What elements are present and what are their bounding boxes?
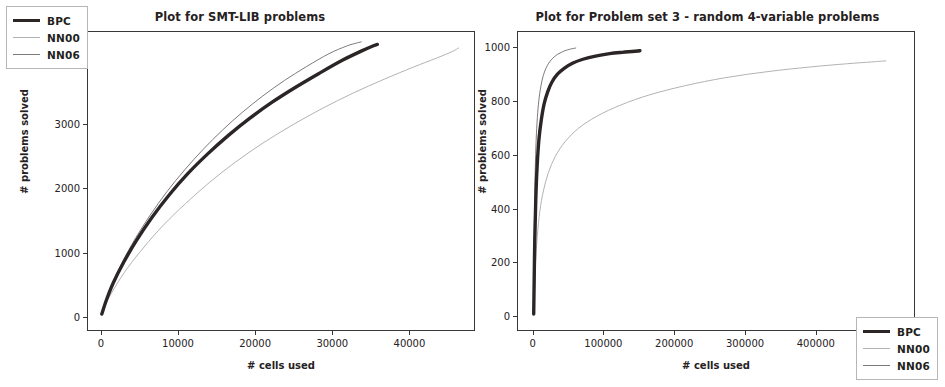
- legend-entry: NN06: [863, 357, 930, 374]
- legend-label-bpc: BPC: [897, 326, 921, 338]
- x-tick-label: 200000: [655, 338, 693, 349]
- y-tick-label: 1000: [455, 42, 510, 53]
- x-tick-label: 100000: [584, 338, 622, 349]
- y-tickmark: [513, 155, 517, 156]
- x-tickmark: [409, 331, 410, 335]
- y-tick-label: 0: [455, 311, 510, 322]
- y-tickmark: [513, 47, 517, 48]
- x-tickmark: [674, 331, 675, 335]
- legend-swatch-bpc: [13, 19, 40, 22]
- y-tickmark: [513, 209, 517, 210]
- x-tickmark: [255, 331, 256, 335]
- y-tick-label: 200: [455, 257, 510, 268]
- x-tickmark: [745, 331, 746, 335]
- legend-swatch-nn00: [863, 348, 890, 349]
- x-tickmark: [533, 331, 534, 335]
- y-tick-label: 800: [455, 95, 510, 106]
- line-nn06: [534, 48, 576, 314]
- chart-panel-problemset3: Plot for Problem set 3 - random 4-variab…: [470, 0, 945, 387]
- x-tick-label: 20000: [239, 338, 271, 349]
- legend-left: BPC NN00 NN06: [6, 6, 88, 69]
- y-tick-label: 400: [455, 203, 510, 214]
- legend-swatch-nn06: [13, 54, 40, 55]
- x-tickmark: [816, 331, 817, 335]
- legend-swatch-bpc: [863, 330, 890, 333]
- chart-title-right: Plot for Problem set 3 - random 4-variab…: [470, 10, 945, 24]
- legend-swatch-nn00: [13, 37, 40, 38]
- y-tickmark: [83, 317, 87, 318]
- y-tickmark: [513, 316, 517, 317]
- x-tickmark: [101, 331, 102, 335]
- y-tickmark: [513, 101, 517, 102]
- line-bpc: [102, 44, 378, 314]
- y-tickmark: [83, 124, 87, 125]
- y-tick-label: 600: [455, 149, 510, 160]
- legend-label-nn06: NN06: [47, 49, 80, 61]
- series-lines-left: [88, 32, 474, 330]
- legend-label-bpc: BPC: [47, 15, 71, 27]
- series-lines-right: [518, 32, 914, 330]
- legend-entry: NN00: [863, 340, 930, 357]
- line-nn00: [102, 48, 459, 314]
- x-tickmark: [178, 331, 179, 335]
- legend-entry: BPC: [13, 12, 80, 29]
- line-bpc: [534, 51, 640, 314]
- x-tick-label: 10000: [162, 338, 194, 349]
- x-tickmark: [603, 331, 604, 335]
- y-tickmark: [83, 253, 87, 254]
- legend-label-nn06: NN06: [897, 360, 930, 372]
- line-nn06: [102, 42, 361, 314]
- x-tick-label: 400000: [797, 338, 835, 349]
- x-axis-label-left: # cells used: [87, 360, 475, 371]
- legend-entry: NN06: [13, 46, 80, 63]
- legend-entry: NN00: [13, 29, 80, 46]
- x-tick-label: 40000: [394, 338, 426, 349]
- plot-area-left: [87, 31, 475, 331]
- x-tick-label: 0: [98, 338, 104, 349]
- x-tickmark: [332, 331, 333, 335]
- chart-panel-smtlib: Plot for SMT-LIB problems # problems sol…: [0, 0, 480, 387]
- y-tick-label: 0: [25, 311, 80, 322]
- y-tickmark: [83, 188, 87, 189]
- y-tick-label: 2000: [25, 183, 80, 194]
- legend-label-nn00: NN00: [897, 343, 930, 355]
- y-tick-label: 1000: [25, 247, 80, 258]
- legend-swatch-nn06: [863, 365, 890, 366]
- line-nn00: [534, 61, 886, 314]
- x-tick-label: 300000: [726, 338, 764, 349]
- figure-root: Plot for SMT-LIB problems # problems sol…: [0, 0, 945, 387]
- x-tick-label: 0: [529, 338, 535, 349]
- legend-label-nn00: NN00: [47, 32, 80, 44]
- y-tickmark: [513, 262, 517, 263]
- plot-area-right: [517, 31, 915, 331]
- legend-right: BPC NN00 NN06: [856, 317, 938, 380]
- x-tick-label: 30000: [316, 338, 348, 349]
- legend-entry: BPC: [863, 323, 930, 340]
- y-tick-label: 3000: [25, 119, 80, 130]
